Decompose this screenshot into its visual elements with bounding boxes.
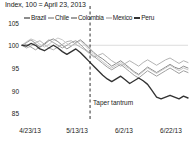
x-axis-tick: 4/23/13 <box>19 127 41 134</box>
annotation-taper-tantrum: Taper tantrum <box>93 99 133 106</box>
x-axis-tick: 6/22/13 <box>160 127 182 134</box>
x-axis-tick: 6/2/13 <box>115 127 133 134</box>
x-axis-tick: 5/13/13 <box>66 127 88 134</box>
x-axis-labels: 4/23/135/13/136/2/136/22/13 <box>0 0 191 141</box>
chart-container: Index, 100 = April 23, 2013 BrazilChileC… <box>0 0 191 141</box>
